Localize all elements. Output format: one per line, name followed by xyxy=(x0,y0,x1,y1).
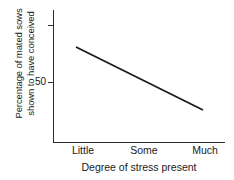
x-tick-label-some: Some xyxy=(114,144,174,156)
x-tick-label-much: Much xyxy=(175,144,234,156)
x-tick-label-little: Little xyxy=(53,144,113,156)
data-series-line xyxy=(76,47,203,110)
y-axis-label-line-2: shown to have conceived xyxy=(24,0,36,144)
y-axis-label: Percentage of mated sows shown to have c… xyxy=(13,0,36,144)
y-axis-label-line-1: Percentage of mated sows xyxy=(13,0,25,144)
x-axis-title: Degree of stress present xyxy=(53,161,225,173)
y-tick-label-50: 50 xyxy=(28,76,46,87)
axis-spines xyxy=(54,10,226,143)
chart-container: Percentage of mated sows shown to have c… xyxy=(0,0,234,180)
